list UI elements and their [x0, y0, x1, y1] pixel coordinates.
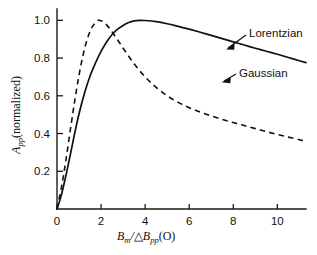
x-title-unit: (O) — [159, 229, 176, 243]
x-tick-label: 8 — [230, 215, 236, 227]
y-tick-label: 0.6 — [34, 90, 50, 102]
y-tick-label: 1.0 — [34, 14, 50, 26]
x-title-sub2: pp — [149, 235, 159, 245]
x-tick-label: 0 — [54, 215, 60, 227]
chart-figure: 0246810 0.20.40.60.81.0 Lorentzian Gauss… — [0, 0, 317, 255]
y-tick-label: 0.2 — [34, 165, 50, 177]
x-tick-label: 2 — [98, 215, 104, 227]
x-tick-label: 4 — [142, 215, 149, 227]
x-tick-label: 10 — [271, 215, 284, 227]
y-title-sub: pp — [15, 138, 25, 148]
y-tick-label: 0.4 — [34, 128, 51, 140]
lorentzian-label: Lorentzian — [249, 27, 303, 39]
x-tick-label: 6 — [186, 215, 192, 227]
y-title-rest: (normalized) — [9, 76, 23, 138]
y-tick-label: 0.8 — [34, 52, 50, 64]
gaussian-label: Gaussian — [239, 67, 288, 79]
